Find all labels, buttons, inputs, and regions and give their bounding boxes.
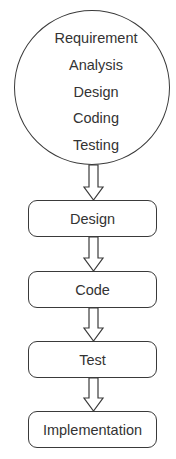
flow-diagram: Requirement Analysis Design Coding Testi… — [0, 0, 176, 459]
step-label: Test — [79, 352, 106, 368]
step-box-design: Design — [28, 200, 157, 237]
circle-label-coding: Coding — [8, 109, 176, 127]
step-box-code: Code — [28, 271, 157, 308]
circle-label-design: Design — [8, 83, 176, 101]
step-box-test: Test — [28, 341, 157, 378]
circle-label-testing: Testing — [8, 136, 176, 154]
down-arrow-icon — [84, 378, 103, 411]
step-label: Code — [75, 282, 110, 298]
down-arrow-icon — [84, 237, 103, 271]
step-label: Implementation — [43, 422, 142, 438]
circle-label-requirement: Requirement — [8, 29, 176, 47]
down-arrow-icon — [84, 308, 103, 341]
step-label: Design — [70, 211, 115, 227]
step-box-implementation: Implementation — [28, 411, 157, 448]
down-arrow-icon — [84, 165, 103, 200]
circle-label-analysis: Analysis — [8, 56, 176, 74]
